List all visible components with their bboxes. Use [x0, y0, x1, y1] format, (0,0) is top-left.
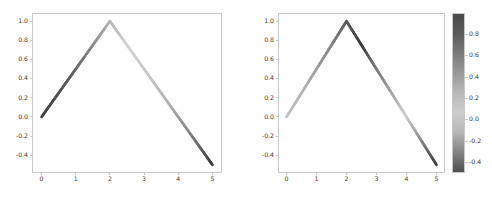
y-tick-label: -0.4 — [4, 152, 28, 158]
colorbar-tick-label: 0.6 — [469, 52, 479, 58]
y-tick-label: 1.0 — [250, 18, 274, 24]
matplotlib-figure: 1.00.80.60.40.20.0-0.2-0.4012345 1.00.80… — [0, 0, 492, 197]
y-tick-label: 1.0 — [4, 18, 28, 24]
x-tick-label: 3 — [367, 176, 387, 182]
colorbar-gradient — [453, 14, 464, 172]
y-tick-mark — [276, 136, 279, 137]
colorbar-tick-mark — [465, 98, 468, 99]
y-tick-label: 0.6 — [4, 56, 28, 62]
x-tick-label: 0 — [277, 176, 297, 182]
left-axes-frame — [32, 13, 222, 173]
y-tick-label: 0.8 — [250, 37, 274, 43]
colorbar-tick-mark — [465, 55, 468, 56]
colorbar-tick-label: -0.2 — [469, 138, 481, 144]
y-tick-label: 0.0 — [250, 114, 274, 120]
y-tick-label: 0.2 — [4, 95, 28, 101]
colorbar-tick-label: 0.4 — [469, 74, 479, 80]
x-tick-label: 1 — [307, 176, 327, 182]
x-tick-label: 0 — [32, 176, 52, 182]
colorbar-tick-label: 0.0 — [469, 116, 479, 122]
y-tick-mark — [30, 97, 33, 98]
colorbar-tick-mark — [465, 119, 468, 120]
colorbar-tick-mark — [465, 141, 468, 142]
y-tick-mark — [30, 78, 33, 79]
y-tick-label: 0.4 — [250, 75, 274, 81]
left-line-plot — [33, 14, 221, 172]
y-tick-label: 0.2 — [250, 95, 274, 101]
y-tick-mark — [30, 136, 33, 137]
right-line-plot — [279, 14, 444, 172]
colorbar-tick-label: 0.2 — [469, 95, 479, 101]
y-tick-label: 0.0 — [4, 114, 28, 120]
y-tick-mark — [276, 155, 279, 156]
x-tick-label: 2 — [337, 176, 357, 182]
x-tick-label: 4 — [168, 176, 188, 182]
y-tick-label: 0.4 — [4, 75, 28, 81]
x-tick-label: 3 — [134, 176, 154, 182]
y-tick-mark — [276, 21, 279, 22]
y-tick-label: -0.4 — [250, 152, 274, 158]
x-tick-label: 2 — [100, 176, 120, 182]
y-tick-mark — [30, 21, 33, 22]
y-tick-label: 0.6 — [250, 56, 274, 62]
y-tick-mark — [30, 155, 33, 156]
y-tick-mark — [276, 40, 279, 41]
y-tick-label: -0.2 — [4, 133, 28, 139]
y-tick-mark — [30, 40, 33, 41]
y-tick-mark — [30, 116, 33, 117]
y-tick-mark — [276, 59, 279, 60]
y-tick-mark — [276, 116, 279, 117]
x-tick-label: 5 — [202, 176, 222, 182]
right-axes-frame — [278, 13, 445, 173]
colorbar-tick-mark — [465, 34, 468, 35]
x-tick-label: 1 — [66, 176, 86, 182]
x-tick-label: 5 — [427, 176, 447, 182]
colorbar-tick-label: 0.8 — [469, 31, 479, 37]
colorbar-tick-mark — [465, 162, 468, 163]
colorbar-tick-label: -0.4 — [469, 159, 481, 165]
y-tick-label: 0.8 — [4, 37, 28, 43]
y-tick-mark — [276, 97, 279, 98]
colorbar — [452, 13, 465, 173]
colorbar-tick-mark — [465, 77, 468, 78]
y-tick-label: -0.2 — [250, 133, 274, 139]
x-tick-label: 4 — [397, 176, 417, 182]
y-tick-mark — [30, 59, 33, 60]
y-tick-mark — [276, 78, 279, 79]
